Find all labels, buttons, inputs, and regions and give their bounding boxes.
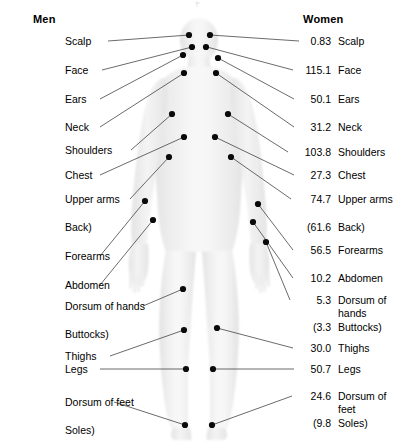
value-women-shoulders: 103.8 [271,145,331,159]
dot-abdomen-right [250,219,256,225]
label-women-neck: Neck [338,120,362,134]
label-men-buttocks: Buttocks) [65,327,109,341]
dot-chest-right [212,134,218,140]
dot-hand-left [180,286,186,292]
label-women-back: Back) [338,220,365,234]
value-women-upper-arms: 74.7 [271,192,331,206]
dot-ear-left [180,52,186,58]
dot-leg-right [210,366,216,372]
value-women-dorsum-feet: 24.6 [271,389,331,403]
dot-foot-left [182,422,188,428]
label-men-face: Face [65,63,88,77]
dot-thigh-right [214,325,220,331]
column-header-men: Men [33,13,56,25]
value-women-chest: 27.3 [271,168,331,182]
value-women-dorsum-hands: 5.3 [271,293,331,307]
label-women-legs: Legs [338,362,361,376]
label-women-dorsum-feet: Dorsum offeet [338,389,386,415]
label-women-forearms: Forearms [338,243,383,257]
label-women-dorsum-hands-l2: hands [338,307,386,319]
dot-chest-left [181,134,187,140]
label-men-ears: Ears [65,92,87,106]
value-women-face: 115.1 [271,63,331,77]
label-women-dorsum-hands-l1: Dorsum of [338,294,386,306]
label-men-neck: Neck [65,120,89,134]
label-men-shoulders: Shoulders [65,143,112,157]
label-women-shoulders: Shoulders [338,145,385,159]
label-women-soles: Soles) [338,416,368,430]
label-women-buttocks: Buttocks) [338,320,382,334]
dot-shoulder-left [169,111,175,117]
label-men-soles: Soles) [65,423,95,437]
label-men-scalp: Scalp [65,34,91,48]
dot-face-left [189,44,195,50]
label-men-forearms: Forearms [65,249,110,263]
value-women-legs: 50.7 [271,362,331,376]
dot-thigh-left [181,327,187,333]
body-silhouette [129,18,270,440]
value-women-forearms: 56.5 [271,243,331,257]
dot-abdomen-left [150,217,156,223]
label-women-face: Face [338,63,361,77]
value-women-ears: 50.1 [271,92,331,106]
label-women-chest: Chest [338,168,365,182]
label-men-legs: Legs [65,362,88,376]
dot-scalp-right [207,32,213,38]
label-women-dorsum-feet-l2: feet [338,403,386,415]
column-header-women: Women [303,13,344,25]
label-men-upper-arms: Upper arms [65,192,120,206]
dot-forearm-left [142,198,148,204]
label-women-abdomen: Abdomen [338,271,383,285]
label-men-back: Back) [65,220,92,234]
scan-artifact-top [195,1,200,7]
label-men-abdomen: Abdomen [65,278,110,292]
label-women-scalp: Scalp [338,34,364,48]
label-women-ears: Ears [338,92,360,106]
value-women-soles: (9.8 [271,416,331,430]
label-men-thighs: Thighs [65,349,97,363]
label-men-chest: Chest [65,168,92,182]
value-women-neck: 31.2 [271,120,331,134]
dot-scalp-left [186,32,192,38]
label-men-dorsum-feet: Dorsum of feet [65,395,134,409]
value-women-thighs: 30.0 [271,341,331,355]
value-women-back: (61.6 [271,220,331,234]
value-women-scalp: 0.83 [271,34,331,48]
label-men-dorsum-hands: Dorsum of hands [65,299,145,313]
label-women-dorsum-feet-l1: Dorsum of [338,390,386,402]
dot-neck-right [213,70,219,76]
value-women-buttocks: (3.3 [271,320,331,334]
label-women-thighs: Thighs [338,341,370,355]
dot-hand-right [263,239,269,245]
dot-face-right [203,44,209,50]
dot-foot-right [209,422,215,428]
value-women-abdomen: 10.2 [271,271,331,285]
label-women-upper-arms: Upper arms [338,192,393,206]
dot-ear-right [215,55,221,61]
dot-upper-arm-left [166,154,172,160]
dot-shoulder-right [225,111,231,117]
label-women-dorsum-hands: Dorsum ofhands [338,293,386,319]
dot-neck-left [181,70,187,76]
dot-forearm-right [255,201,261,207]
dot-upper-arm-right [228,154,234,160]
dot-leg-left [183,366,189,372]
